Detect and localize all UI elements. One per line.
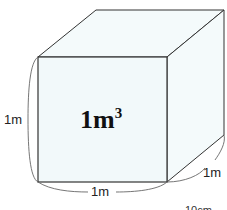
width-brace-right [116, 182, 167, 192]
depth-label: 1m [203, 165, 221, 180]
partial-label: 10cm [185, 204, 212, 210]
height-label: 1m [4, 112, 22, 127]
width-label: 1m [91, 184, 109, 199]
height-brace [28, 57, 38, 182]
width-brace-left [38, 182, 88, 192]
cube-diagram: 1m3 1m 1m 1m 10cm [0, 0, 227, 210]
